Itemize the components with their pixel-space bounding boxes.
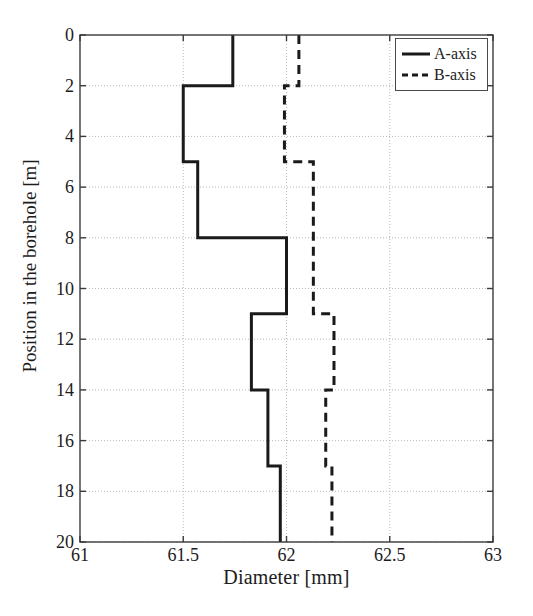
x-tick-label: 62.5 — [374, 545, 406, 566]
legend-swatch-solid-icon — [401, 48, 431, 60]
legend-item-b-axis: B-axis — [401, 64, 482, 85]
y-axis-title: Position in the borehole [m] — [19, 66, 41, 466]
y-tick-label: 18 — [32, 481, 74, 502]
x-tick-label: 63 — [484, 545, 502, 566]
legend-label-a-axis: A-axis — [434, 46, 477, 62]
x-tick-label: 62 — [278, 545, 296, 566]
legend-item-a-axis: A-axis — [401, 43, 482, 64]
chart-figure: 6161.56262.563 02468101214161820 Diamete… — [0, 0, 533, 616]
x-axis-title: Diameter [mm] — [80, 566, 493, 589]
y-tick-label: 20 — [32, 532, 74, 553]
x-tick-label: 61.5 — [168, 545, 200, 566]
plot-canvas — [0, 0, 533, 616]
y-tick-label: 0 — [32, 25, 74, 46]
legend-swatch-dashed-icon — [401, 69, 431, 81]
y-axis-title-wrapper: Position in the borehole [m] — [0, 0, 36, 542]
legend: A-axis B-axis — [395, 38, 488, 91]
legend-label-b-axis: B-axis — [434, 67, 476, 83]
